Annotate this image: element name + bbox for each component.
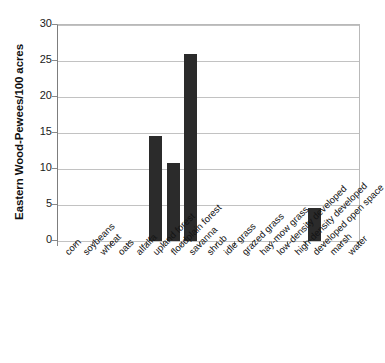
y-axis-tick-label: 20 — [32, 90, 52, 101]
y-axis-tick-label: 15 — [32, 126, 52, 137]
y-axis-tick-label: 0 — [32, 234, 52, 245]
y-axis-tick-mark — [52, 168, 57, 169]
y-axis-tick-mark — [52, 96, 57, 97]
gridline — [58, 133, 359, 134]
y-axis-tick-label: 30 — [32, 18, 52, 29]
gridline — [58, 25, 359, 26]
x-axis-tick-mark — [57, 241, 58, 246]
x-axis-tick-labels: cornsoybeanswheatoatsalfalfaupland fores… — [0, 247, 374, 363]
gridline — [58, 61, 359, 62]
gridline — [58, 169, 359, 170]
y-axis-tick-mark — [52, 240, 57, 241]
y-axis-tick-label: 10 — [32, 162, 52, 173]
y-axis-tick-label: 25 — [32, 54, 52, 65]
y-axis-tick-label: 5 — [32, 198, 52, 209]
gridline — [58, 205, 359, 206]
gridline — [58, 97, 359, 98]
y-axis-title: Eastern Wood-Pewees/100 acres — [8, 24, 30, 240]
y-axis-tick-mark — [52, 132, 57, 133]
y-axis-title-text: Eastern Wood-Pewees/100 acres — [13, 44, 25, 220]
y-axis-tick-mark — [52, 24, 57, 25]
y-axis-tick-mark — [52, 204, 57, 205]
y-axis-tick-mark — [52, 60, 57, 61]
bar — [149, 136, 162, 241]
